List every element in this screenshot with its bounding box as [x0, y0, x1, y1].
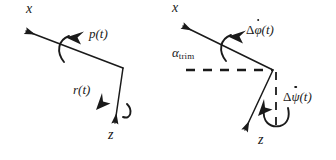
right-z-axis-line — [245, 70, 273, 130]
delta-symbol: Δ — [246, 22, 254, 37]
alpha-symbol: α — [172, 45, 179, 60]
left-yaw-rate-label: r(t) — [73, 83, 90, 96]
psi-symbol-dotted: ψ — [291, 90, 299, 103]
right-z-axis-label: z — [258, 133, 263, 147]
left-roll-arrowhead — [66, 32, 84, 45]
psi-symbol: ψ — [291, 89, 299, 104]
left-yaw-arrowhead — [96, 93, 111, 110]
left-z-axis-label: z — [108, 128, 113, 142]
diagram-vector-layer — [0, 0, 336, 160]
left-roll-curve — [59, 36, 69, 62]
figure-root: x z p(t) r(t) x z αtrim Δφ(t) Δψ(t) — [0, 0, 336, 160]
left-yaw-curve — [123, 104, 130, 118]
phi-argument: (t) — [262, 22, 274, 37]
alpha-subscript: trim — [179, 51, 194, 61]
left-x-axis-label: x — [26, 2, 32, 16]
delta-symbol-2: Δ — [283, 89, 291, 104]
right-yaw-rate-perturbation-label: Δψ(t) — [283, 90, 312, 103]
right-roll-arrowhead — [228, 31, 246, 44]
right-panel-graphics — [183, 26, 289, 130]
right-yaw-arrowhead — [258, 99, 273, 116]
right-x-axis-label: x — [172, 1, 178, 15]
psi-argument: (t) — [299, 89, 311, 104]
left-roll-rate-label: p(t) — [89, 27, 108, 40]
phi-symbol: φ — [254, 22, 261, 37]
phi-symbol-dotted: φ — [254, 23, 261, 36]
left-z-axis-line — [115, 68, 123, 123]
right-trim-angle-label: αtrim — [172, 46, 194, 61]
right-roll-rate-perturbation-label: Δφ(t) — [246, 23, 274, 36]
left-panel-graphics — [26, 31, 130, 123]
